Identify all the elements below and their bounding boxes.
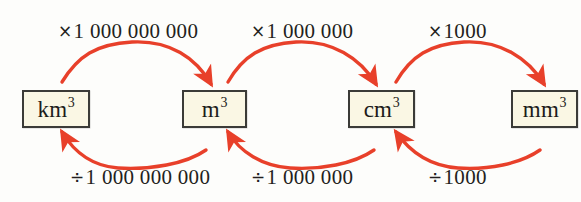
multiply-arrow-km3-to-m3: [62, 42, 211, 84]
divide-label-mm3-to-cm3: ÷1000: [428, 165, 487, 190]
divide-symbol-3: ÷: [428, 167, 443, 187]
divide-arrow-cm3-to-m3: [228, 132, 374, 168]
unit-exponent-m3: 3: [220, 96, 227, 110]
multiply-value-2: 1 000 000: [267, 19, 354, 43]
divide-symbol-2: ÷: [251, 167, 266, 187]
unit-box-km3[interactable]: km3: [22, 90, 90, 128]
unit-base-cm3: cm: [364, 98, 393, 121]
multiply-arrow-cm3-to-mm3: [396, 42, 544, 84]
divide-arrow-m3-to-km3: [62, 132, 206, 168]
multiply-arrows: [62, 42, 544, 84]
multiply-symbol-1: ×: [58, 21, 73, 41]
unit-box-mm3[interactable]: mm3: [511, 90, 578, 128]
multiply-label-m3-to-cm3: ×1 000 000: [251, 19, 353, 44]
divide-arrow-mm3-to-cm3: [396, 132, 540, 168]
unit-base-m3: m: [202, 98, 220, 121]
multiply-label-km3-to-m3: ×1 000 000 000: [58, 19, 198, 44]
unit-exponent-mm3: 3: [559, 96, 566, 110]
divide-value-1: 1 000 000 000: [86, 165, 211, 189]
unit-box-m3[interactable]: m3: [182, 90, 247, 128]
divide-arrows: [62, 132, 540, 168]
multiply-symbol-2: ×: [251, 21, 266, 41]
multiply-label-cm3-to-mm3: ×1000: [428, 19, 487, 44]
divide-symbol-1: ÷: [70, 167, 85, 187]
multiply-value-1: 1 000 000 000: [74, 19, 199, 43]
unit-exponent-km3: 3: [68, 96, 75, 110]
unit-exponent-cm3: 3: [393, 96, 400, 110]
divide-label-cm3-to-m3: ÷1 000 000: [251, 165, 353, 190]
unit-conversion-diagram: km3 m3 cm3 mm3 ×1 000 000 000 ×1 000 000…: [0, 0, 581, 202]
divide-value-2: 1 000 000: [267, 165, 354, 189]
unit-base-km3: km: [38, 98, 68, 121]
multiply-value-3: 1000: [444, 19, 487, 43]
multiply-symbol-3: ×: [428, 21, 443, 41]
unit-base-mm3: mm: [523, 98, 559, 121]
divide-value-3: 1000: [444, 165, 487, 189]
unit-box-cm3[interactable]: cm3: [348, 90, 415, 128]
divide-label-m3-to-km3: ÷1 000 000 000: [70, 165, 210, 190]
multiply-arrow-m3-to-cm3: [228, 42, 376, 84]
